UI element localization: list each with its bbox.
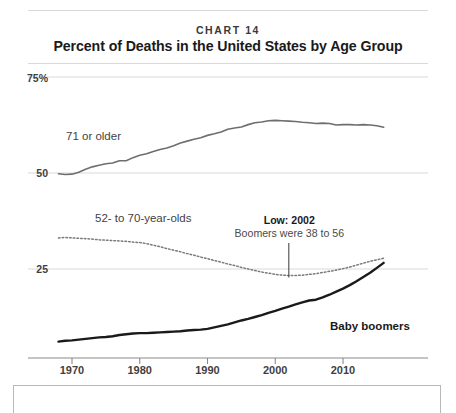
y-axis-label-25: 25 [8, 263, 48, 275]
annotation-low-2002: Low: 2002 Boomers were 38 to 56 [212, 214, 367, 240]
annotation-title: Low: 2002 [212, 214, 367, 227]
footer-frame [13, 385, 441, 413]
series-label-52-to-70-year-olds: 52- to 70-year-olds [95, 212, 192, 224]
series-line-71-or-older [58, 120, 383, 174]
x-axis-label-1990: 1990 [183, 364, 233, 376]
gridlines-group [28, 77, 428, 269]
series-label-71-or-older: 71 or older [66, 130, 121, 142]
y-axis-label-50: 50 [8, 167, 48, 179]
series-label-baby-boomers: Baby boomers [330, 320, 410, 332]
series-line-52-to-70-year-olds [58, 238, 383, 276]
x-axis-label-1970: 1970 [47, 364, 97, 376]
x-axis-label-2010: 2010 [318, 364, 368, 376]
annotation-subtitle: Boomers were 38 to 56 [212, 227, 367, 240]
y-axis-label-75: 75% [8, 72, 48, 84]
x-axis-label-2000: 2000 [250, 364, 300, 376]
x-axis-label-1980: 1980 [115, 364, 165, 376]
